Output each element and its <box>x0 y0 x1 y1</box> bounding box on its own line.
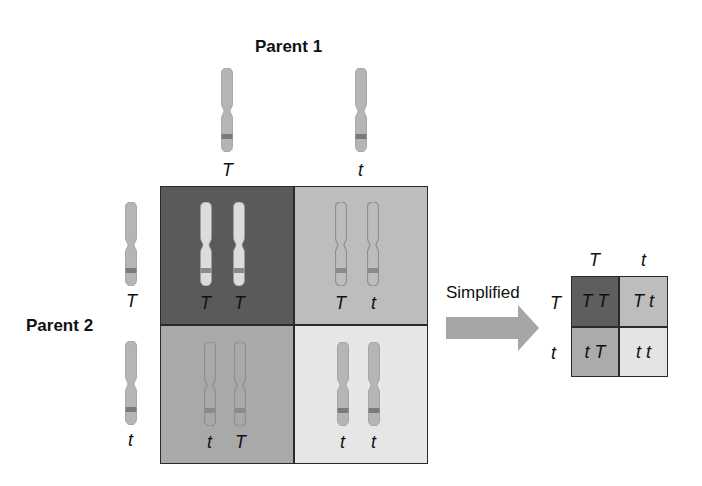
col-header-t: t <box>641 251 646 269</box>
parent2-chromosome-t-icon <box>125 341 137 425</box>
parent1-allele-t: t <box>358 161 363 179</box>
simplified-divider-horizontal <box>571 326 668 328</box>
row-header-t: t <box>551 344 556 362</box>
parent1-chromosome-T-icon <box>221 68 233 152</box>
parent2-allele-T: T <box>126 292 137 310</box>
parent2-title: Parent 2 <box>26 316 93 336</box>
arrow-right-icon <box>446 304 540 352</box>
col-header-T: T <box>589 251 600 269</box>
parent2-chromosome-T-icon <box>125 202 137 286</box>
parent1-title: Parent 1 <box>255 37 322 57</box>
parent1-chromosome-t-icon <box>355 68 367 152</box>
parent1-allele-T: T <box>222 161 233 179</box>
row-header-T: T <box>550 294 561 312</box>
simplified-label: Simplified <box>446 283 520 303</box>
grid-divider-horizontal <box>160 324 428 326</box>
parent2-allele-t: t <box>128 431 133 449</box>
